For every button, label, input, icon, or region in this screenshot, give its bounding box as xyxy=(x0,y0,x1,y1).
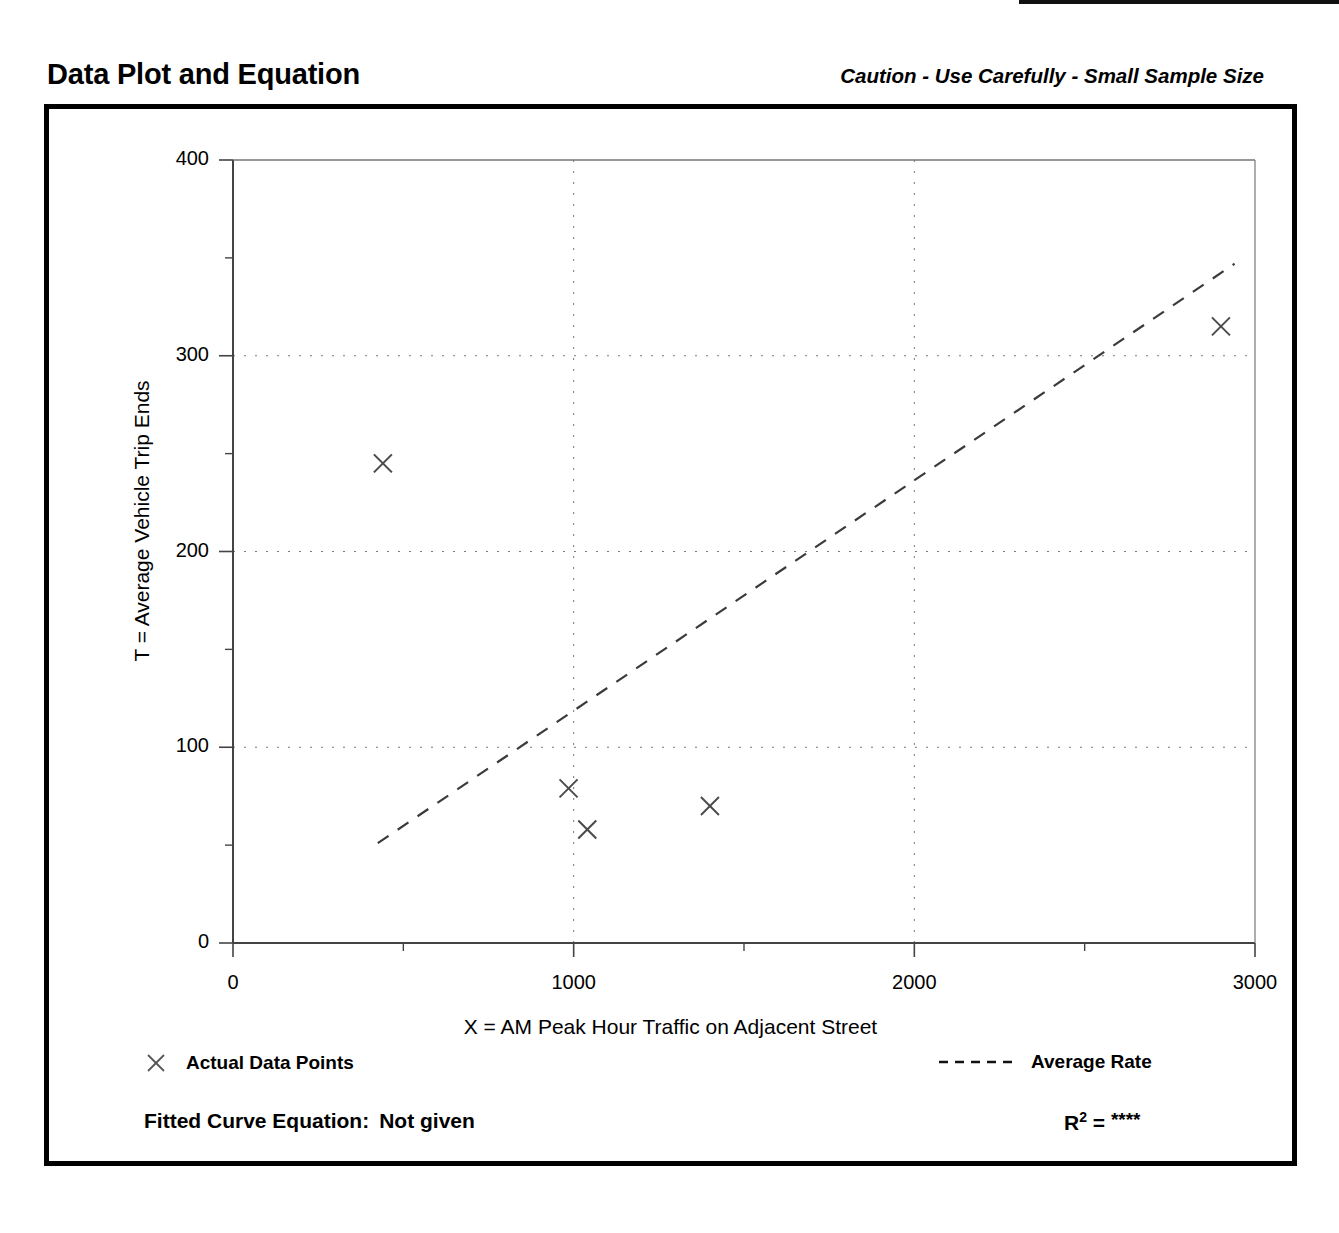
r-squared-stars: **** xyxy=(1111,1109,1141,1130)
average-rate-line xyxy=(378,264,1235,843)
gridlines xyxy=(233,160,1255,943)
dashed-line-icon xyxy=(937,1055,1015,1069)
data-point-marker xyxy=(560,779,578,797)
caution-note: Caution - Use Carefully - Small Sample S… xyxy=(840,64,1264,88)
data-point-marker xyxy=(578,820,596,838)
data-point-markers xyxy=(374,317,1230,838)
top-divider-rule xyxy=(1019,0,1339,4)
r-squared-value: R2 = **** xyxy=(1064,1109,1141,1135)
r-squared-label: R xyxy=(1064,1111,1079,1134)
equation-value: Not given xyxy=(379,1109,475,1132)
axis-ticks xyxy=(219,160,1255,957)
x-marker-icon xyxy=(144,1051,168,1075)
legend-item-actual-data-points: Actual Data Points xyxy=(144,1051,354,1075)
equation-label: Fitted Curve Equation: xyxy=(144,1109,369,1132)
scatter-plot xyxy=(49,109,1292,1161)
data-point-marker xyxy=(1212,317,1230,335)
r-squared-equals: = xyxy=(1093,1111,1105,1134)
plot-axes xyxy=(233,160,1255,943)
page-title: Data Plot and Equation xyxy=(47,58,360,91)
r-squared-exponent: 2 xyxy=(1079,1109,1087,1125)
legend-label-actual-data-points: Actual Data Points xyxy=(186,1052,354,1074)
data-point-marker xyxy=(701,797,719,815)
data-point-marker xyxy=(374,454,392,472)
legend-label-average-rate: Average Rate xyxy=(1031,1051,1152,1073)
legend-item-average-rate: Average Rate xyxy=(937,1051,1152,1073)
chart-panel: T = Average Vehicle Trip Ends X = AM Pea… xyxy=(44,104,1297,1166)
header: Data Plot and Equation Caution - Use Car… xyxy=(0,58,1339,98)
fitted-curve-equation: Fitted Curve Equation:Not given xyxy=(144,1109,475,1133)
